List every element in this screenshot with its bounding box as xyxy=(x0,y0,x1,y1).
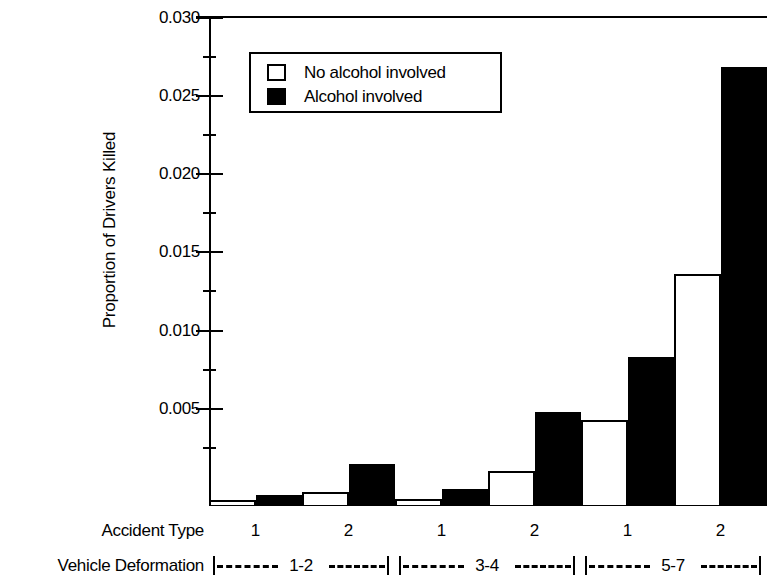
bar-alcohol-4 xyxy=(628,357,675,505)
bracket-label: 1-2 xyxy=(213,556,389,576)
legend-label: No alcohol involved xyxy=(304,63,446,82)
y-tick-label: 0.005 xyxy=(134,400,200,417)
bar-no-alcohol-5 xyxy=(674,274,721,505)
bar-chart-figure: Proportion of Drivers Killed 0.030 0.025… xyxy=(0,0,775,584)
accident-type-tick-4: 1 xyxy=(608,521,648,541)
bar-no-alcohol-3 xyxy=(488,471,535,505)
bracket-label: 5-7 xyxy=(585,556,761,576)
accident-type-tick-1: 2 xyxy=(329,521,369,541)
deformation-bracket-3-4: 3-4 xyxy=(399,556,575,576)
y-tick-label: 0.025 xyxy=(134,87,200,104)
bar-no-alcohol-2 xyxy=(395,499,442,506)
legend-swatch-light xyxy=(267,64,286,81)
deformation-bracket-5-7: 5-7 xyxy=(585,556,761,576)
y-tick-label: 0.030 xyxy=(134,9,200,26)
y-tick-label: 0.010 xyxy=(134,322,200,339)
y-tick-label: 0.020 xyxy=(134,165,200,182)
y-axis-tick-labels: 0.030 0.025 0.020 0.015 0.010 0.005 xyxy=(130,0,200,520)
bracket-label: 3-4 xyxy=(399,556,575,576)
bar-alcohol-5 xyxy=(721,67,768,505)
bar-no-alcohol-1 xyxy=(302,492,349,505)
legend-item-no-alcohol: No alcohol involved xyxy=(267,61,446,83)
vehicle-deformation-row-label: Vehicle Deformation xyxy=(0,556,204,576)
legend-swatch-dark xyxy=(267,88,286,105)
bar-no-alcohol-0 xyxy=(209,500,256,505)
accident-type-tick-2: 1 xyxy=(422,521,462,541)
y-tick-label: 0.015 xyxy=(134,243,200,260)
bar-alcohol-2 xyxy=(442,489,489,505)
bar-alcohol-0 xyxy=(256,495,303,505)
accident-type-tick-3: 2 xyxy=(515,521,555,541)
legend-label: Alcohol involved xyxy=(304,87,422,106)
y-axis-title: Proportion of Drivers Killed xyxy=(97,65,123,395)
accident-type-tick-0: 1 xyxy=(236,521,276,541)
accident-type-row-label: Accident Type xyxy=(34,521,204,541)
legend: No alcohol involved Alcohol involved xyxy=(249,52,502,113)
bar-no-alcohol-4 xyxy=(581,420,628,505)
bar-alcohol-3 xyxy=(535,412,582,505)
accident-type-tick-5: 2 xyxy=(701,521,741,541)
deformation-bracket-1-2: 1-2 xyxy=(213,556,389,576)
legend-item-alcohol: Alcohol involved xyxy=(267,85,422,107)
bar-alcohol-1 xyxy=(349,464,396,505)
